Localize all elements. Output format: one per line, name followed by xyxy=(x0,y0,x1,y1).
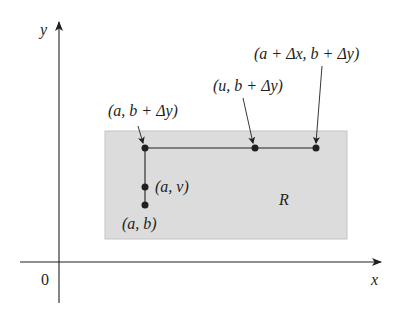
origin-label: 0 xyxy=(41,271,49,288)
point-a-dx-b-dy xyxy=(313,145,320,152)
label-a-b-dy: (a, b + Δy) xyxy=(108,102,178,120)
x-axis-label: x xyxy=(370,271,378,288)
point-a-b xyxy=(142,202,149,209)
point-a-v xyxy=(142,184,149,191)
point-u-b-dy xyxy=(252,145,259,152)
region-label: R xyxy=(278,191,289,208)
y-axis-label: y xyxy=(38,21,48,39)
diagram-canvas: y x 0 R (a, b) (a, v) (a, b + Δy) (u, b … xyxy=(0,0,408,316)
label-u-b-dy: (u, b + Δy) xyxy=(213,77,283,95)
label-a-dx-b-dy: (a + Δx, b + Δy) xyxy=(254,45,359,63)
label-a-b: (a, b) xyxy=(122,215,157,233)
point-a-b-dy xyxy=(142,145,149,152)
label-a-v: (a, v) xyxy=(155,178,189,196)
